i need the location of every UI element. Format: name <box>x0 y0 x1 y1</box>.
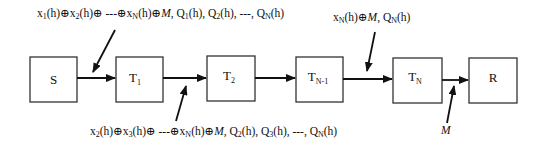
injection-arrow-t1-t2 <box>176 86 186 121</box>
annotation-s-t1: x1(h)⊕x2(h)⊕ ---⊕xN(h)⊕M, Q1(h), Q2(h), … <box>37 7 284 21</box>
annotation-t1-t2: x2(h)⊕x3(h)⊕ ---⊕xN(h)⊕M, Q2(h), Q3(h), … <box>90 125 337 139</box>
injection-arrow-tn-r <box>447 86 454 123</box>
node-t2: T2 <box>207 56 255 101</box>
node-tn: TN <box>393 58 442 103</box>
injection-arrow-s-t1 <box>93 30 115 72</box>
relay-chain-diagram: S T1 T2 TN-1 TN R <box>0 0 544 151</box>
node-s-label: S <box>50 72 57 87</box>
node-r: R <box>469 58 517 103</box>
node-t1: T1 <box>116 57 163 102</box>
node-r-label: R <box>489 70 498 85</box>
annotation-tn-1-tn: xN(h)⊕M, QN(h) <box>333 11 411 25</box>
node-tn-1: TN-1 <box>296 57 343 102</box>
node-s: S <box>30 57 77 102</box>
annotation-tn-r: M <box>440 124 452 136</box>
injection-arrow-tn-1-tn <box>367 32 375 71</box>
